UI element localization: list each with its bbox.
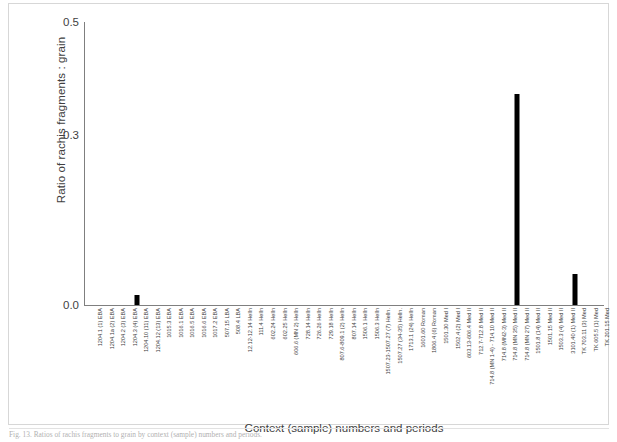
bar-slot [408,22,420,305]
bar-slot [246,22,258,305]
bar-slot [189,22,201,305]
x-tick-label: 1713.1 (24) Helln [406,308,417,420]
x-tick-label: TK 605.5 (1) Med [591,308,602,420]
bar-slot [569,22,581,305]
x-tick-label: 1204.10 (11) EBA [141,308,152,420]
bar-series [85,22,604,305]
x-tick-label: 807.6-809.1 (2) Helln [337,308,348,420]
x-tick-label: 1503.3 (4) Med II [556,308,567,420]
bar-slot [154,22,166,305]
figure-frame: Ratio of rachis fragments : grain 0.00.3… [8,3,609,425]
x-tick-label: 1501.8 (14) Med II [533,308,544,420]
bar-slot [281,22,293,305]
bar [134,295,139,305]
x-tick-label: 1502.4 (2) Med I [453,308,464,420]
bar-slot [396,22,408,305]
x-axis-line [84,305,604,306]
bar-slot [223,22,235,305]
bar-slot [177,22,189,305]
y-tick-label: 0.0 [63,299,79,311]
x-tick-label: 606.6 (MN 2) Helln [291,308,302,420]
bar-slot [108,22,120,305]
x-tick-label: 602.24 Helln [268,308,279,420]
x-tick-label: 603.13-606.4 Med II [464,308,475,420]
figure-caption: Fig. 13. Ratios of rachis fragments to g… [9,430,609,439]
bar-slot [592,22,604,305]
x-tick-label: 714.8 (MN 1-4) - 714.10 Med II [487,308,498,420]
x-tick-label: 1017.2 EBA [210,308,221,420]
bar-slot [466,22,478,305]
x-tick-label: 807.14 Helln [349,308,360,420]
bar-slot [258,22,270,305]
bar-slot [443,22,455,305]
x-tick-label: 3101.40 (1) Med II [568,308,579,420]
x-tick-label: 1204.1a (2) EBA [107,308,118,420]
x-tick-label: 1506.3 Helln [372,308,383,420]
x-tick-label: 1204.12 (13) EBA [153,308,164,420]
bar-slot [385,22,397,305]
x-tick-label: 1204.2 (3) EBA [118,308,129,420]
y-axis-title: Ratio of rachis fragments : grain [55,10,67,230]
x-tick-label: 1806.4 (6) Roman [429,308,440,420]
bar-slot [212,22,224,305]
x-tick-label: TK 703.11 (3) Med [579,308,590,420]
bar-slot [316,22,328,305]
bar-slot [523,22,535,305]
bar-slot [373,22,385,305]
x-tick-label: 729.18 Helln [326,308,337,420]
bar-slot [143,22,155,305]
x-tick-label: 714.8 (MN 27) Med II [522,308,533,420]
bar-slot [293,22,305,305]
bar-slot [200,22,212,305]
bar-slot [477,22,489,305]
x-tick-label: 1507.23-1507.27 (7) Helln. [383,308,394,420]
bar-slot [500,22,512,305]
x-tick-label: 1204.3 (4) EBA [130,308,141,420]
bar-slot [327,22,339,305]
x-tick-label: 1507.27 (34-35) Helln. [395,308,406,420]
bar-slot [304,22,316,305]
bar-slot [546,22,558,305]
x-tick-label: 507.15 LBA [222,308,233,420]
bar-slot [270,22,282,305]
bar-slot [339,22,351,305]
bar-slot [131,22,143,305]
bar-slot [454,22,466,305]
x-tick-label: 1601.60 Roman [418,308,429,420]
bar-slot [362,22,374,305]
bar-slot [431,22,443,305]
x-axis-tick-labels: 1204.1 (1) EBA1204.1a (2) EBA1204.2 (3) … [85,308,605,420]
x-tick-label: 714.8 (MN2-3) Med II [499,308,510,420]
bar-slot [512,22,524,305]
x-tick-label: 12.12-12.14 Helln [245,308,256,420]
x-tick-label: 1506.1 Helln [360,308,371,420]
x-tick-label: 712.7-712.8 Med II [476,308,487,420]
bar-slot [581,22,593,305]
bar-slot [97,22,109,305]
bar-slot [419,22,431,305]
caption-divider [9,428,609,429]
bar [515,94,520,305]
bar-slot [535,22,547,305]
bar-slot [235,22,247,305]
bar-slot [120,22,132,305]
x-tick-label: 1501.15 Med II [545,308,556,420]
x-tick-label: 1501.30 Med I [441,308,452,420]
y-tick-label: 0.5 [63,16,79,28]
y-tick-label: 0.3 [63,129,79,141]
bar-slot [489,22,501,305]
figure-page: Ratio of rachis fragments : grain 0.00.3… [0,0,617,442]
x-tick-label: 111.4 Helln [256,308,267,420]
x-tick-label: 728.14 Helln [303,308,314,420]
bar-slot [558,22,570,305]
x-tick-label: TK 201.15 Med [602,308,613,420]
bar [573,274,578,305]
x-tick-label: 1016.1 EBA [176,308,187,420]
x-tick-label: 1016.6 EBA [199,308,210,420]
x-tick-label: 1016.5 EBA [187,308,198,420]
x-tick-label: 1015.3 EBA [164,308,175,420]
x-tick-label: 602.25 Helln [280,308,291,420]
bar-slot [166,22,178,305]
plot-area: 0.00.30.5 [84,22,604,305]
x-tick-label: 726.26 Helln [314,308,325,420]
